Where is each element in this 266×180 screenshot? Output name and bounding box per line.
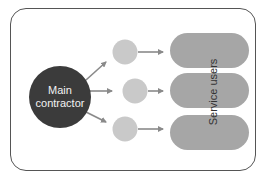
- arrow-main-to-node-1: [86, 62, 106, 80]
- intermediate-node-2: [123, 79, 148, 104]
- arrow-main-to-node-3: [86, 112, 106, 122]
- intermediate-node-1: [113, 40, 138, 65]
- intermediate-nodes: [113, 40, 148, 142]
- intermediate-node-3: [113, 117, 138, 142]
- main-label-line-2: contractor: [30, 97, 90, 110]
- service-users-label: Service users: [207, 59, 219, 126]
- main-contractor-label: Main contractor: [30, 84, 90, 110]
- main-label-line-1: Main: [30, 84, 90, 97]
